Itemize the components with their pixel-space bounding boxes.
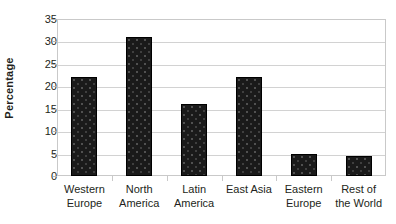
bar[interactable] [181, 104, 207, 176]
bar[interactable] [126, 37, 152, 176]
bar[interactable] [236, 77, 262, 176]
y-tick-label: 0 [23, 171, 57, 182]
y-tick-label: 25 [23, 58, 57, 69]
y-tick-label: 10 [23, 126, 57, 137]
x-tick-label: EasternEurope [276, 182, 331, 210]
x-tick-label: WesternEurope [57, 182, 112, 210]
category-separator [222, 176, 223, 181]
y-tick-label: 30 [23, 36, 57, 47]
bar[interactable] [291, 154, 317, 176]
category-separator [167, 176, 168, 181]
bar[interactable] [71, 77, 97, 176]
x-tick-label-line: Europe [276, 196, 331, 210]
bar-slot [222, 19, 277, 176]
bar-slot [112, 19, 167, 176]
bar-chart: Percentage 05101520253035 WesternEuropeN… [0, 0, 396, 224]
x-tick-label-line: America [112, 196, 167, 210]
bar-slot [57, 19, 112, 176]
x-tick-label: LatinAmerica [167, 182, 222, 210]
x-tick-label-line: the World [331, 196, 386, 210]
bar-slot [331, 19, 386, 176]
y-tick-label: 15 [23, 103, 57, 114]
bar[interactable] [346, 156, 372, 176]
y-tick-label: 5 [23, 148, 57, 159]
x-tick-label-line: Europe [57, 196, 112, 210]
x-tick-label: East Asia [222, 182, 277, 196]
x-tick-label-line: Western [57, 182, 112, 196]
y-axis-ticks: 05101520253035 [12, 19, 57, 176]
bars-layer [57, 19, 386, 176]
y-tick-label: 20 [23, 81, 57, 92]
category-separator [276, 176, 277, 181]
x-tick-label-line: North [112, 182, 167, 196]
category-separator [112, 176, 113, 181]
x-tick-label: Rest ofthe World [331, 182, 386, 210]
x-axis-labels: WesternEuropeNorthAmericaLatinAmericaEas… [57, 182, 386, 222]
category-separator [331, 176, 332, 181]
x-tick-label-line: Eastern [276, 182, 331, 196]
bar-slot [276, 19, 331, 176]
bar-slot [167, 19, 222, 176]
x-tick-label-line: America [167, 196, 222, 210]
y-tick-label: 35 [23, 14, 57, 25]
x-tick-label: NorthAmerica [112, 182, 167, 210]
category-separators [57, 176, 386, 181]
x-tick-label-line: Latin [167, 182, 222, 196]
x-tick-label-line: East Asia [222, 182, 277, 196]
x-tick-label-line: Rest of [331, 182, 386, 196]
